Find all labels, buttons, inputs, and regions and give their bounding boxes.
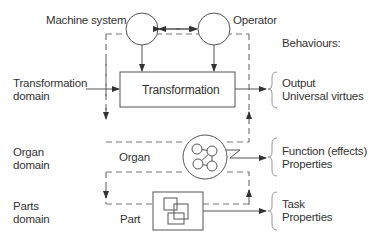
behaviours-heading: Behaviours: xyxy=(282,37,341,50)
machine-system-circle xyxy=(126,13,158,45)
organ-icon xyxy=(183,135,227,179)
transformation-label: Transformation xyxy=(142,84,219,97)
transformation-domain-label: Transformation domain xyxy=(13,77,87,103)
organ-domain-label: Organ domain xyxy=(13,146,50,172)
machine-system-label: Machine system xyxy=(46,14,126,27)
organ-label: Organ xyxy=(119,151,150,164)
function-behaviour: Function (effects) Properties xyxy=(282,145,367,171)
operator-label: Operator xyxy=(233,14,277,27)
operator-circle xyxy=(198,13,230,45)
part-label: Part xyxy=(120,213,140,226)
output-behaviour: Output Universal virtues xyxy=(282,77,364,103)
task-behaviour: Task Properties xyxy=(282,198,332,224)
parts-domain-label: Parts domain xyxy=(13,200,50,226)
function-arrow xyxy=(226,150,266,158)
part-icon xyxy=(153,192,203,230)
braces xyxy=(268,72,277,230)
